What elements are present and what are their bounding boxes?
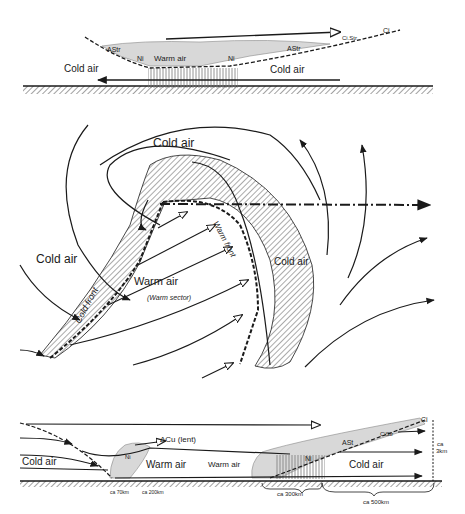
flow-line-3	[20, 468, 108, 470]
label-dist-70: ca 70km	[110, 489, 129, 495]
label-cold-air-right: Cold air	[274, 256, 309, 267]
top-cross-section: Cold air Cold air Warm air AStr AStr Ni …	[23, 27, 433, 94]
label-cistr: Ci.Str	[342, 35, 357, 41]
label-astr: ASt	[342, 439, 353, 446]
label-ni-right: Ni	[305, 455, 312, 462]
label-warm-air: Warm air	[154, 54, 186, 63]
rain-band	[148, 68, 238, 88]
label-cold-air-left: Cold air	[64, 63, 99, 74]
outflow-arrow-1	[300, 140, 328, 255]
label-cold-air-right: Cold air	[349, 459, 384, 470]
storm-track-arrow	[160, 204, 430, 205]
label-acu: ΔCu (lent)	[160, 435, 196, 444]
outflow-arrow-2	[348, 145, 366, 278]
label-warm-air-1: Warm air	[146, 459, 187, 470]
label-dist-200: ca 200km	[142, 489, 164, 495]
label-warm-air: Warm air	[134, 275, 179, 287]
frontal-system-diagram: Cold air Cold air Warm air AStr AStr Ni …	[0, 0, 465, 514]
label-ni-right: Ni	[228, 55, 235, 62]
label-cistr: CiStr	[380, 431, 393, 437]
upper-flow-arrow	[26, 424, 320, 425]
label-ni-left: Ni	[125, 454, 131, 460]
label-cold-air-top: Cold air	[153, 136, 194, 150]
upper-flow-arrow	[166, 32, 340, 39]
cold-front-cloud	[110, 443, 150, 478]
bottom-cross-section: Cold air Warm air Warm air Cold air ΔCu …	[20, 416, 447, 505]
label-cold-air-left: Cold air	[22, 456, 57, 467]
outflow-arrow-3	[340, 238, 427, 305]
frontal-zone-hatch	[40, 155, 314, 368]
ground-hatch	[20, 481, 442, 487]
label-warm-air-2: Warm air	[208, 460, 240, 469]
label-height-ca: ca	[437, 441, 444, 447]
cold-flow-arrow-4	[20, 265, 80, 320]
warm-flow-arrow-1	[158, 212, 187, 228]
flow-line-1	[20, 438, 72, 444]
label-cold-air-right: Cold air	[270, 64, 305, 75]
label-warm-sector: (Warm sector)	[147, 294, 191, 302]
label-warm-front: Warm front	[211, 220, 238, 260]
outflow-arrow-4	[305, 300, 434, 367]
label-ci: Ci	[383, 27, 390, 34]
label-height-3km: 3km	[436, 448, 447, 454]
label-cold-air-left: Cold air	[36, 252, 77, 266]
label-dist-500: ca 500km	[363, 499, 389, 505]
label-ni-left: Ni	[137, 55, 144, 62]
label-ci: Ci	[421, 416, 428, 423]
warm-flow-arrow-6	[202, 363, 233, 378]
label-astr-right: AStr	[287, 45, 301, 52]
plan-view: Cold air Cold air Cold air Warm air (War…	[20, 125, 434, 378]
label-dist-300: ca 300km	[277, 491, 303, 497]
label-astr-left: AStr	[107, 46, 121, 53]
